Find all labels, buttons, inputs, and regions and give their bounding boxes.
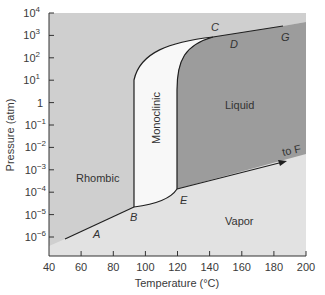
svg-text:80: 80 xyxy=(107,261,119,273)
y-tick-labels: 104 103 102 101 1 10−1 10−2 10−3 10−4 10… xyxy=(23,5,46,243)
point-b-label: B xyxy=(130,211,137,223)
svg-text:101: 101 xyxy=(23,72,40,86)
y-axis-label: Pressure (atm) xyxy=(4,99,16,172)
svg-text:10−5: 10−5 xyxy=(25,207,47,221)
svg-text:180: 180 xyxy=(265,261,283,273)
svg-text:104: 104 xyxy=(23,5,40,19)
svg-text:140: 140 xyxy=(200,261,218,273)
svg-text:10−6: 10−6 xyxy=(25,229,47,243)
point-c-label: C xyxy=(211,21,219,33)
liquid-label: Liquid xyxy=(225,99,254,111)
point-g-label: G xyxy=(281,31,290,43)
svg-text:120: 120 xyxy=(168,261,186,273)
svg-text:100: 100 xyxy=(136,261,154,273)
phase-diagram: 104 103 102 101 1 10−1 10−2 10−3 10−4 10… xyxy=(0,0,325,295)
point-d-label: D xyxy=(230,38,238,50)
svg-text:40: 40 xyxy=(43,261,55,273)
svg-text:160: 160 xyxy=(233,261,251,273)
vapor-label: Vapor xyxy=(225,215,254,227)
point-a-label: A xyxy=(92,228,100,240)
svg-text:10−2: 10−2 xyxy=(25,139,47,153)
rhombic-label: Rhombic xyxy=(76,172,120,184)
x-axis-label: Temperature (°C) xyxy=(135,277,219,289)
svg-text:10−3: 10−3 xyxy=(25,162,47,176)
x-tick-labels: 40 60 80 100 120 140 160 180 200 xyxy=(43,261,315,273)
svg-text:60: 60 xyxy=(75,261,87,273)
monoclinic-label: Monoclinic xyxy=(150,92,162,144)
point-e-label: E xyxy=(180,194,188,206)
svg-text:103: 103 xyxy=(23,27,40,41)
svg-text:102: 102 xyxy=(23,50,40,64)
svg-text:10−1: 10−1 xyxy=(25,117,47,131)
svg-text:200: 200 xyxy=(297,261,315,273)
svg-text:1: 1 xyxy=(37,97,43,109)
svg-text:10−4: 10−4 xyxy=(25,184,47,198)
